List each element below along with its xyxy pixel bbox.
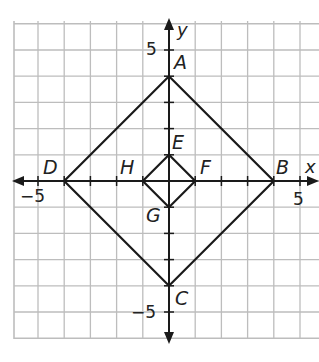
x-axis-right-arrow-icon bbox=[307, 176, 319, 186]
point-label-c: C bbox=[175, 287, 189, 309]
x-tick-label-neg5: −5 bbox=[20, 186, 45, 206]
coordinate-plane: y x 5 −5 −5 5 A B C D E F G H bbox=[0, 0, 319, 362]
x-axis-label: x bbox=[304, 156, 316, 177]
y-axis-label: y bbox=[176, 19, 188, 40]
point-label-e: E bbox=[172, 131, 184, 153]
point-label-a: A bbox=[172, 51, 187, 73]
point-label-f: F bbox=[200, 156, 212, 178]
x-tick-label-5: 5 bbox=[293, 189, 304, 209]
y-tick-label-5: 5 bbox=[146, 39, 157, 59]
point-label-g: G bbox=[146, 204, 161, 226]
y-tick-label-neg5: −5 bbox=[131, 302, 156, 322]
point-label-d: D bbox=[43, 156, 58, 178]
point-label-b: B bbox=[276, 156, 289, 178]
point-label-h: H bbox=[120, 156, 134, 178]
